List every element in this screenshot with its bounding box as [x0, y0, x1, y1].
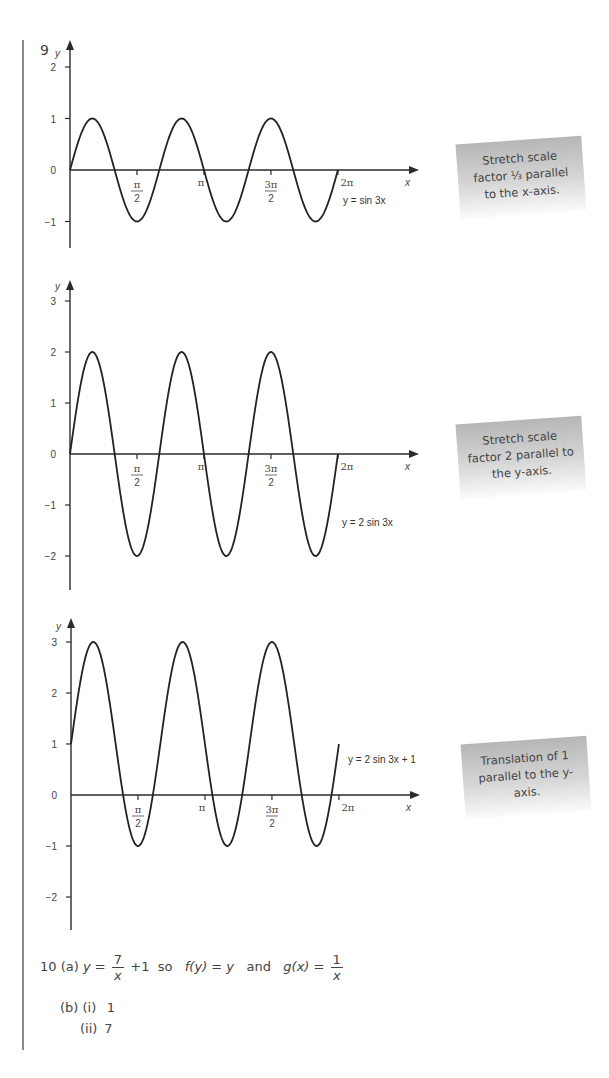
svg-text:1: 1	[51, 739, 57, 750]
svg-text:y: y	[55, 621, 62, 632]
svg-text:3: 3	[50, 296, 56, 307]
graph-2-sin-3x-plus-1: yx3210−1−2π2π3π22πy = 2 sin 3x + 1	[0, 600, 430, 940]
svg-text:0: 0	[50, 449, 56, 460]
svg-text:y: y	[54, 48, 61, 59]
svg-text:−1: −1	[46, 841, 58, 852]
svg-text:2: 2	[50, 347, 56, 358]
fraction-1-over-x: 1x	[331, 952, 343, 983]
annotation-note-3: Translation of 1 parallel to the y-axis.	[461, 736, 592, 820]
part-b-ii-value: 7	[104, 1021, 112, 1036]
svg-text:2: 2	[135, 818, 141, 829]
svg-text:y = 2 sin 3x + 1: y = 2 sin 3x + 1	[348, 754, 416, 765]
svg-text:1: 1	[50, 114, 56, 125]
part-b-label: (b)	[60, 1000, 78, 1015]
question-10-part-a: 10 (a) y = 7x +1 so f(y) = y and g(x) = …	[40, 952, 345, 983]
svg-text:π: π	[135, 804, 142, 815]
svg-text:2: 2	[269, 818, 275, 829]
svg-text:y = 2 sin 3x: y = 2 sin 3x	[342, 517, 393, 528]
svg-text:y: y	[54, 281, 61, 292]
svg-text:2: 2	[50, 62, 56, 73]
svg-text:x: x	[404, 177, 411, 188]
svg-text:3π: 3π	[264, 463, 277, 474]
equation-lhs: y =	[83, 959, 106, 974]
graph-sin-3x: yx210−1π2π3π22πy = sin 3x	[0, 0, 430, 260]
svg-text:2: 2	[51, 688, 57, 699]
part-b-i-value: 1	[107, 1000, 115, 1015]
svg-text:3: 3	[51, 637, 57, 648]
svg-text:−2: −2	[46, 892, 58, 903]
svg-text:π: π	[134, 463, 141, 474]
svg-text:2π: 2π	[340, 461, 353, 472]
f-expression: f(y) = y	[185, 959, 234, 974]
svg-text:0: 0	[51, 790, 57, 801]
plus-one-so: +1 so	[130, 959, 180, 974]
question-10-part-b-i: (b) (i) 1	[60, 1000, 115, 1015]
and-text: and	[238, 959, 279, 974]
part-b-i-label: (i)	[83, 1000, 103, 1015]
fraction-7-over-x: 7x	[112, 952, 124, 983]
svg-text:3π: 3π	[264, 179, 277, 190]
question-10-part-b-ii: (ii) 7	[80, 1021, 112, 1036]
svg-text:2: 2	[268, 477, 274, 488]
part-b-ii-label: (ii)	[80, 1021, 100, 1036]
svg-text:−1: −1	[45, 500, 57, 511]
svg-text:x: x	[404, 461, 411, 472]
svg-text:2: 2	[268, 193, 274, 204]
svg-text:π: π	[198, 461, 205, 472]
part-a-label: (a)	[61, 959, 79, 974]
g-expression: g(x) =	[283, 959, 324, 974]
svg-text:π: π	[134, 179, 141, 190]
annotation-note-1: Stretch scale factor ⅓ parallel to the x…	[456, 136, 587, 220]
svg-text:−1: −1	[45, 217, 57, 228]
annotation-note-2: Stretch scale factor 2 parallel to the y…	[456, 416, 587, 500]
svg-text:2: 2	[134, 193, 140, 204]
svg-text:2π: 2π	[341, 802, 354, 813]
question-10-number: 10	[40, 959, 57, 974]
svg-text:3π: 3π	[265, 804, 278, 815]
svg-text:2π: 2π	[340, 177, 353, 188]
svg-text:2: 2	[134, 477, 140, 488]
graph-2-sin-3x: yx3210−1−2π2π3π22πy = 2 sin 3x	[0, 260, 430, 600]
svg-text:y = sin 3x: y = sin 3x	[343, 195, 386, 206]
svg-text:−2: −2	[45, 551, 57, 562]
svg-text:x: x	[405, 802, 412, 813]
svg-text:π: π	[198, 177, 205, 188]
svg-text:0: 0	[50, 165, 56, 176]
svg-text:1: 1	[50, 398, 56, 409]
svg-text:π: π	[199, 802, 206, 813]
